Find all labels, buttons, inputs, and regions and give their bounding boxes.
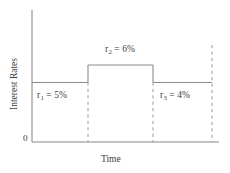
- rate-subscript-r3: 3: [163, 94, 167, 101]
- origin-label: 0: [23, 134, 28, 143]
- chart-canvas: [0, 0, 230, 173]
- rate-value-r2: 6%: [122, 44, 135, 54]
- y-axis-label-wrapper: Interest Rates: [8, 38, 22, 130]
- y-axis-label: Interest Rates: [10, 58, 20, 110]
- dashed-boundaries-group: [88, 45, 212, 142]
- rate-subscript-r2: 2: [108, 48, 112, 55]
- rate-label-r3: r3 = 4%: [160, 91, 190, 101]
- rate-equals-r3: =: [167, 90, 177, 100]
- rate-equals-r1: =: [44, 90, 54, 100]
- rate-value-r3: 4%: [177, 90, 190, 100]
- x-axis-label: Time: [101, 155, 121, 165]
- rate-label-r2: r2 = 6%: [105, 45, 135, 55]
- interest-rates-step-chart: Interest Rates Time 0 r1 = 5% r2 = 6% r3…: [0, 0, 230, 173]
- rate-label-r1: r1 = 5%: [37, 91, 67, 101]
- rate-subscript-r1: 1: [40, 94, 44, 101]
- rate-equals-r2: =: [112, 44, 122, 54]
- axes-group: [32, 10, 219, 142]
- rate-value-r1: 5%: [54, 90, 67, 100]
- step-function-path: [32, 65, 212, 83]
